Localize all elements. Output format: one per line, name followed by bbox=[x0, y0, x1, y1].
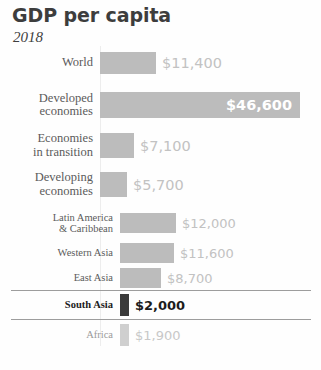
category-label: Developed economies bbox=[0, 92, 100, 119]
separator-rule bbox=[11, 319, 311, 320]
bar bbox=[100, 52, 156, 74]
bar bbox=[120, 294, 129, 316]
category-label: South Asia bbox=[0, 299, 120, 310]
category-label: Latin America & Caribbean bbox=[0, 212, 120, 235]
bar-row: Latin America & Caribbean$12,000 bbox=[0, 213, 321, 233]
bar-value-label: $11,600 bbox=[174, 246, 234, 261]
bar-value-label: $1,900 bbox=[129, 328, 181, 343]
bar-value-label: $11,400 bbox=[156, 55, 222, 71]
bar bbox=[100, 172, 127, 197]
bar-row: Developing economies$5,700 bbox=[0, 172, 321, 197]
category-label: Africa bbox=[0, 329, 120, 340]
bar-row: Developed economies$46,600 bbox=[0, 92, 321, 118]
bar-value-label: $7,100 bbox=[134, 138, 191, 154]
bar-row: World$11,400 bbox=[0, 52, 321, 74]
bar-row: Economies in transition$7,100 bbox=[0, 133, 321, 158]
bar-row: Western Asia$11,600 bbox=[0, 243, 321, 263]
bar-row: Africa$1,900 bbox=[0, 324, 321, 346]
bar-value-label: $8,700 bbox=[161, 271, 213, 286]
separator-rule bbox=[11, 290, 311, 291]
bar-row: South Asia$2,000 bbox=[0, 294, 321, 316]
bar-value-label: $2,000 bbox=[129, 298, 185, 313]
bar-value-label: $5,700 bbox=[127, 177, 184, 193]
bar bbox=[120, 243, 174, 263]
gdp-per-capita-chart: GDP per capita 2018 World$11,400Develope… bbox=[0, 0, 321, 370]
bar bbox=[120, 324, 129, 346]
bar bbox=[100, 133, 134, 158]
category-label: Western Asia bbox=[0, 247, 120, 258]
bar bbox=[120, 213, 176, 233]
category-label: World bbox=[0, 56, 100, 70]
bar-rows: World$11,400Developed economies$46,600Ec… bbox=[0, 0, 321, 370]
category-label: Economies in transition bbox=[0, 132, 100, 159]
bar-row: East Asia$8,700 bbox=[0, 268, 321, 288]
category-label: Developing economies bbox=[0, 171, 100, 198]
category-label: East Asia bbox=[0, 272, 120, 283]
bar bbox=[120, 268, 161, 288]
bar-value-label: $12,000 bbox=[176, 216, 236, 231]
bar-value-label: $46,600 bbox=[100, 92, 292, 118]
